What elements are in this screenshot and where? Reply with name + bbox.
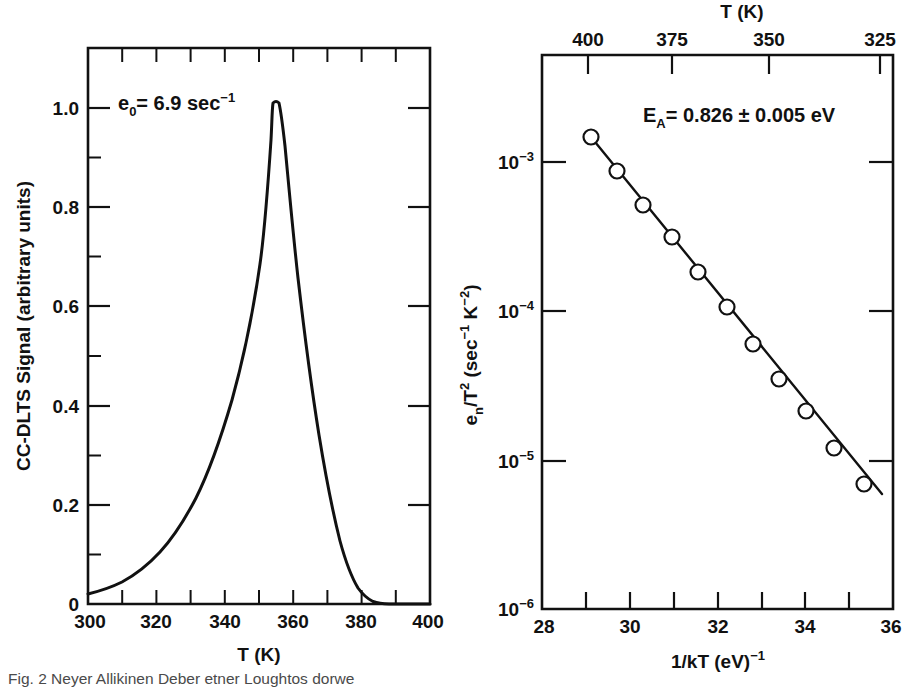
left-y-ticks (88, 108, 110, 555)
left-annotation: e0= 6.9 sec−1 (118, 90, 235, 119)
data-point (799, 404, 814, 419)
left-y-ticklabel-0.6: 0.6 (53, 296, 79, 317)
data-point (665, 230, 680, 245)
y-label-exp: −4 (519, 298, 535, 313)
data-point (772, 372, 787, 387)
right-x-ticklabel-34: 34 (794, 616, 816, 637)
data-point (827, 441, 842, 456)
ylab-units-close: ) (460, 285, 481, 291)
left-bottom-ticks (122, 590, 396, 604)
data-point (636, 198, 651, 213)
left-y-axis-label: CC-DLTS Signal (arbitrary units) (13, 181, 34, 471)
left-x-ticklabels: 300 320 340 360 380 400 (74, 611, 444, 632)
right-x-ticklabel-32: 32 (707, 616, 728, 637)
ylab-units-k: K (460, 305, 481, 324)
arrhenius-data-points (584, 130, 872, 492)
left-x-ticklabel-320: 320 (140, 611, 172, 632)
left-top-ticks (122, 48, 396, 62)
ylab-sec-sup: −1 (457, 325, 472, 340)
ylab-e-sub: n (471, 407, 486, 415)
right-y-ticklabels: 10−3 10−4 10−5 10−6 (498, 149, 535, 620)
right-y-ticklabel-1e-5: 10−5 (498, 448, 534, 472)
cc-dlts-curve (88, 102, 430, 605)
ylab-T-sup: 2 (457, 383, 472, 390)
left-y-ticklabel-1.0: 1.0 (53, 98, 79, 119)
left-y-ticklabel-0.4: 0.4 (53, 396, 80, 417)
data-point (746, 337, 761, 352)
left-right-edge-ticks (408, 108, 430, 505)
data-point (691, 265, 706, 280)
left-y-ticklabel-0.2: 0.2 (53, 495, 79, 516)
right-top-ticklabel-375: 375 (656, 29, 688, 50)
data-point (610, 164, 625, 179)
left-panel: 1.0 0.8 0.6 0.4 0.2 0 300 320 340 360 38… (13, 48, 444, 665)
svg-text:e0= 6.9 sec−1: e0= 6.9 sec−1 (118, 90, 235, 119)
right-annot-symbol: E (643, 104, 656, 126)
right-y-axis-label: en/T2 (sec−1 K−2) (457, 285, 486, 426)
left-x-ticklabel-400: 400 (412, 611, 444, 632)
right-x-ticklabel-28: 28 (533, 616, 554, 637)
right-y-ticklabel-1e-3: 10−3 (498, 149, 534, 173)
data-point (857, 477, 872, 492)
ylab-slashT: /T (460, 390, 481, 407)
left-y-ticklabel-0.8: 0.8 (53, 197, 79, 218)
left-annot-exponent: −1 (220, 90, 235, 105)
figure-canvas: 1.0 0.8 0.6 0.4 0.2 0 300 320 340 360 38… (0, 0, 909, 694)
ylab-units-open: (sec (460, 339, 481, 383)
data-point (720, 300, 735, 315)
y-label-base: 10 (498, 451, 519, 472)
right-y-ticklabel-1e-4: 10−4 (498, 298, 535, 322)
right-y-ticklabel-1e-6: 10−6 (498, 596, 534, 620)
y-label-exp: −6 (519, 596, 534, 611)
left-annot-symbol-sub: 0 (129, 104, 136, 119)
arrhenius-fit-line (591, 137, 882, 494)
left-annot-equals: = 6.9 sec (136, 92, 220, 114)
left-x-ticklabel-340: 340 (209, 611, 241, 632)
y-label-exp: −3 (519, 149, 534, 164)
right-top-axis-label: T (K) (720, 1, 763, 22)
left-x-ticklabel-300: 300 (74, 611, 106, 632)
right-panel: 400 375 350 325 T (K) 28 30 32 34 36 1/k… (457, 1, 902, 672)
figure-root: 1.0 0.8 0.6 0.4 0.2 0 300 320 340 360 38… (0, 0, 909, 694)
right-y-ticks (542, 162, 566, 461)
right-bottom-axis-label-exponent: −1 (750, 648, 765, 663)
left-plot-frame (88, 48, 430, 604)
left-y-ticklabels: 1.0 0.8 0.6 0.4 0.2 0 (53, 98, 80, 615)
ylab-e: e (460, 415, 481, 426)
y-label-base: 10 (498, 301, 519, 322)
figure-caption: Fig. 2 Neyer Allikinen Deber etner Lough… (8, 668, 898, 692)
right-x-ticklabel-36: 36 (880, 616, 901, 637)
y-label-exp: −5 (519, 448, 534, 463)
ylab-k-sup: −2 (457, 291, 472, 306)
right-annot-value: = 0.826 ± 0.005 eV (666, 104, 836, 126)
right-top-ticks (588, 55, 880, 74)
left-x-axis-label: T (K) (237, 644, 280, 665)
right-edge-y-ticks (869, 162, 893, 461)
data-point (584, 130, 599, 145)
y-label-base: 10 (498, 599, 519, 620)
y-label-base: 10 (498, 152, 519, 173)
left-x-ticklabel-360: 360 (277, 611, 309, 632)
right-top-ticklabel-325: 325 (864, 29, 896, 50)
right-x-ticklabel-30: 30 (619, 616, 640, 637)
left-x-ticklabel-380: 380 (345, 611, 377, 632)
right-top-ticklabel-400: 400 (572, 29, 604, 50)
right-bottom-ticklabels: 28 30 32 34 36 (533, 616, 901, 637)
right-annotation: EA= 0.826 ± 0.005 eV (643, 104, 836, 131)
right-bottom-ticks (586, 592, 849, 609)
right-top-ticklabels: 400 375 350 325 (572, 29, 896, 50)
right-top-ticklabel-350: 350 (753, 29, 785, 50)
left-annot-symbol: e (118, 92, 129, 114)
